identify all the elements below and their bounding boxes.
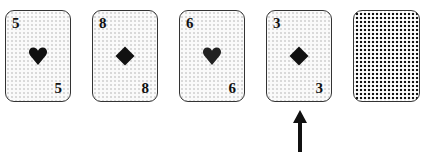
card-3-of-diamonds: 3 3 bbox=[266, 10, 332, 102]
card-rank-bottom: 5 bbox=[55, 81, 63, 96]
heart-icon bbox=[28, 46, 48, 66]
card-rank-top: 5 bbox=[12, 16, 20, 31]
card-6-of-hearts: 6 6 bbox=[179, 10, 245, 102]
card-rank-top: 3 bbox=[273, 16, 281, 31]
card-rank-bottom: 8 bbox=[142, 81, 150, 96]
card-rank-top: 6 bbox=[186, 16, 194, 31]
card-rank-top: 8 bbox=[99, 16, 107, 31]
up-arrow-icon bbox=[293, 110, 307, 152]
heart-icon bbox=[202, 46, 222, 66]
diamond-icon bbox=[115, 46, 135, 66]
card-8-of-diamonds: 8 8 bbox=[92, 10, 158, 102]
card-5-of-hearts: 5 5 bbox=[5, 10, 71, 102]
card-face-down bbox=[353, 10, 420, 102]
card-rank-bottom: 3 bbox=[316, 81, 324, 96]
card-rank-bottom: 6 bbox=[229, 81, 237, 96]
diamond-icon bbox=[289, 46, 309, 66]
